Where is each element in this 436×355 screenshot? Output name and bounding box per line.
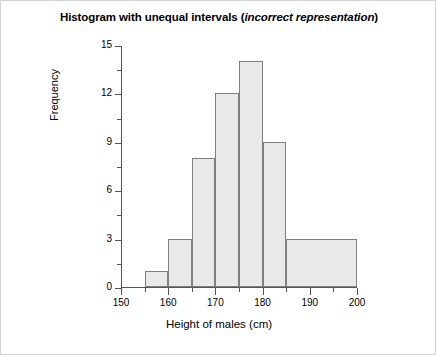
y-tick-mark bbox=[115, 240, 121, 241]
x-tick-mark bbox=[310, 288, 311, 295]
x-tick-label: 190 bbox=[301, 297, 318, 308]
y-tick-label: 15 bbox=[101, 39, 112, 50]
histogram-bar bbox=[239, 61, 263, 287]
x-axis-title: Height of males (cm) bbox=[1, 318, 436, 330]
histogram-bar bbox=[263, 142, 287, 287]
x-tick-label: 170 bbox=[207, 297, 224, 308]
y-tick-minor bbox=[117, 215, 121, 216]
histogram-bar bbox=[192, 158, 216, 287]
x-tick-mark bbox=[168, 288, 169, 295]
x-tick-label: 160 bbox=[160, 297, 177, 308]
x-tick-minor bbox=[239, 288, 240, 292]
x-tick-label: 200 bbox=[349, 297, 366, 308]
x-tick-mark bbox=[215, 288, 216, 295]
chart-title-suffix: ) bbox=[374, 11, 378, 23]
y-tick-mark bbox=[115, 191, 121, 192]
y-tick-label: 9 bbox=[106, 136, 112, 147]
histogram-bar bbox=[145, 271, 169, 287]
y-tick-label: 12 bbox=[101, 87, 112, 98]
histogram-bar bbox=[168, 239, 192, 287]
histogram-figure: Histogram with unequal intervals (incorr… bbox=[0, 0, 436, 355]
x-tick-label: 150 bbox=[113, 297, 130, 308]
y-axis-title: Frequency bbox=[48, 69, 60, 121]
x-tick-minor bbox=[145, 288, 146, 292]
chart-title: Histogram with unequal intervals (incorr… bbox=[1, 11, 436, 23]
y-tick-minor bbox=[117, 264, 121, 265]
y-axis-line bbox=[121, 46, 122, 288]
chart-title-italic: incorrect representation bbox=[244, 11, 374, 23]
y-tick-minor bbox=[117, 119, 121, 120]
y-tick-label: 6 bbox=[106, 184, 112, 195]
x-tick-minor bbox=[286, 288, 287, 292]
x-tick-minor bbox=[192, 288, 193, 292]
x-tick-mark bbox=[357, 288, 358, 295]
histogram-bar bbox=[215, 93, 239, 287]
x-tick-minor bbox=[333, 288, 334, 292]
y-tick-label: 0 bbox=[106, 281, 112, 292]
x-tick-mark bbox=[121, 288, 122, 295]
y-tick-label: 3 bbox=[106, 233, 112, 244]
x-tick-label: 180 bbox=[254, 297, 271, 308]
histogram-bar bbox=[286, 239, 357, 287]
y-tick-minor bbox=[117, 167, 121, 168]
y-tick-minor bbox=[117, 70, 121, 71]
y-tick-mark bbox=[115, 46, 121, 47]
chart-title-prefix: Histogram with unequal intervals ( bbox=[60, 11, 244, 23]
y-tick-mark bbox=[115, 143, 121, 144]
y-tick-mark bbox=[115, 94, 121, 95]
x-tick-mark bbox=[263, 288, 264, 295]
plot-area: 03691215 150160170180190200 bbox=[121, 46, 357, 288]
